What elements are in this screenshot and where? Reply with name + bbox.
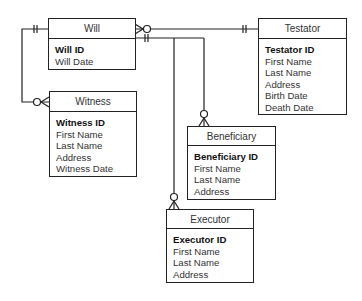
- entity-title: Will: [49, 19, 135, 39]
- attribute: First Name: [265, 56, 346, 68]
- attribute: Last Name: [56, 140, 136, 152]
- attribute: Witness Date: [56, 163, 136, 175]
- attribute: Death Date: [265, 102, 346, 114]
- primary-key: Executor ID: [173, 234, 253, 246]
- attribute: Address: [173, 269, 253, 281]
- entity-executor[interactable]: Executor Executor ID First Name Last Nam…: [166, 209, 254, 283]
- primary-key: Testator ID: [265, 44, 346, 56]
- attribute: First Name: [194, 163, 275, 175]
- attribute: Last Name: [173, 257, 253, 269]
- entity-beneficiary[interactable]: Beneficiary Beneficiary ID First Name La…: [187, 126, 276, 200]
- entity-testator[interactable]: Testator Testator ID First Name Last Nam…: [258, 18, 347, 115]
- attribute: Last Name: [194, 174, 275, 186]
- attribute: Address: [194, 186, 275, 198]
- entity-title: Witness: [50, 92, 136, 112]
- entity-will[interactable]: Will Will ID Will Date: [48, 18, 136, 70]
- primary-key: Beneficiary ID: [194, 151, 275, 163]
- attribute: Last Name: [265, 67, 346, 79]
- entity-witness[interactable]: Witness Witness ID First Name Last Name …: [49, 91, 137, 177]
- attribute: First Name: [173, 246, 253, 258]
- attribute: Address: [56, 152, 136, 164]
- entity-title: Beneficiary: [188, 127, 275, 146]
- primary-key: Witness ID: [56, 117, 136, 129]
- entity-title: Executor: [167, 210, 253, 229]
- entity-title: Testator: [259, 19, 346, 39]
- attribute: Birth Date: [265, 90, 346, 102]
- attribute: Address: [265, 79, 346, 91]
- attribute: First Name: [56, 129, 136, 141]
- attribute: Will Date: [55, 56, 135, 68]
- primary-key: Will ID: [55, 44, 135, 56]
